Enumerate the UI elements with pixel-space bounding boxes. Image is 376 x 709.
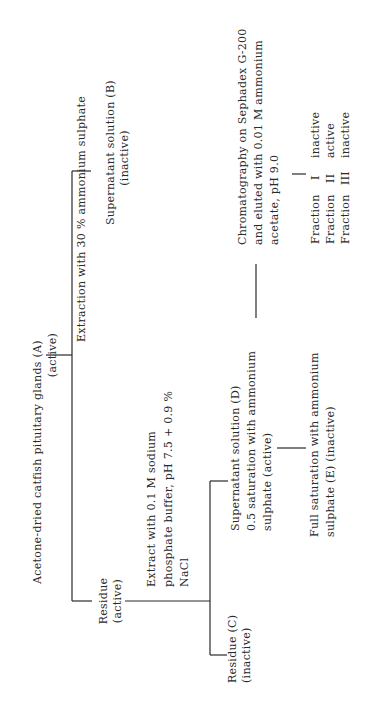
fraction-1-name: Fraction [309, 194, 322, 244]
step1-label: Extraction with 30 % ammonium sulphate [75, 96, 88, 342]
supernatant-d-line-1: Supernatant solution (D) [229, 385, 242, 531]
fraction-2-status: active [324, 123, 337, 158]
residue-label: Residue [97, 578, 110, 625]
full-saturation-e-line-2: sulphate (E) (inactive) [324, 406, 337, 537]
step2-line-1: Extract with 0.1 M sodium [145, 431, 158, 587]
fraction-1-status: inactive [309, 112, 322, 158]
residue-c-label: Residue (C) [226, 615, 239, 683]
chromatography-line-1: Chromatography on Sephadex G-200 [236, 28, 249, 245]
fraction-3-numeral: III [339, 171, 352, 185]
root-status: (active) [46, 333, 59, 377]
supernatant-d-line-2: 0.5 saturation with ammonium [245, 351, 258, 531]
chromatography-line-3: acetate, pH 9.0 [268, 155, 281, 245]
fraction-2-numeral: II [324, 174, 337, 183]
fraction-list: Fraction I inactive Fraction II active F… [309, 112, 352, 244]
supernatant-b-status: (inactive) [118, 130, 131, 186]
fraction-2-name: Fraction [324, 194, 337, 244]
root-label: Acetone-dried catfish pituitary glands (… [31, 340, 44, 585]
fraction-3-name: Fraction [339, 194, 352, 244]
purification-flowchart: Acetone-dried catfish pituitary glands (… [0, 0, 376, 709]
supernatant-d-line-3: sulphate (active) [261, 433, 274, 531]
chromatography-line-2: and eluted with 0.01 M ammonium [252, 40, 265, 245]
supernatant-b-label: Supernatant solution (B) [104, 80, 117, 225]
step2-line-3: NaCl [178, 558, 191, 587]
full-saturation-e-line-1: Full saturation with ammonium [308, 352, 321, 537]
residue-c-status: (inactive) [240, 627, 253, 683]
step2-line-2: phosphate buffer, pH 7.5 + 0.9 % [162, 391, 175, 587]
fraction-1-numeral: I [309, 175, 322, 180]
fraction-3-status: inactive [339, 112, 352, 158]
residue-status: (active) [111, 579, 124, 623]
